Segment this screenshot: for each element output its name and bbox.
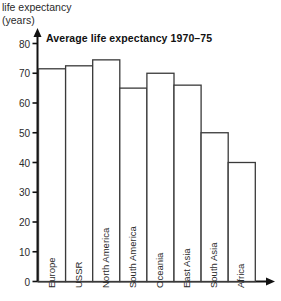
y-tick-label: 70	[8, 68, 30, 79]
category-label-africa: Africa	[235, 263, 246, 287]
bar-europe[interactable]	[39, 69, 66, 282]
plot-area: 01020304050607080 EuropeUSSRNorth Americ…	[0, 0, 281, 301]
bar-oceania[interactable]	[147, 73, 174, 281]
y-tick-label: 80	[8, 38, 30, 49]
y-tick-label: 50	[8, 127, 30, 138]
category-label-ussr: USSR	[73, 261, 84, 287]
bar-ussr[interactable]	[66, 66, 93, 282]
chart-container: life expectancy(years) Average life expe…	[0, 0, 281, 301]
x-axis-arrow	[266, 278, 275, 286]
category-label-south-asia: South Asia	[208, 242, 219, 287]
y-tick-label: 20	[8, 217, 30, 228]
y-axis-arrow	[34, 28, 42, 37]
y-tick-label: 0	[8, 276, 30, 287]
category-label-south-america: South America	[127, 226, 138, 288]
bars-group	[39, 60, 256, 282]
y-tick-label: 30	[8, 187, 30, 198]
y-tick-label: 60	[8, 98, 30, 109]
category-label-oceania: Oceania	[154, 252, 165, 287]
plot-svg	[0, 0, 281, 301]
category-label-europe: Europe	[46, 257, 57, 288]
category-label-north-america: North America	[100, 227, 111, 287]
category-label-east-asia: East Asia	[181, 248, 192, 288]
y-tick-label: 40	[8, 157, 30, 168]
y-tick-label: 10	[8, 246, 30, 257]
